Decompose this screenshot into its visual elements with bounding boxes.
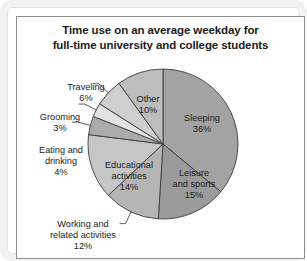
- pie-slice-label: Working andrelated activities12%: [50, 219, 116, 251]
- pie-slices-group: [88, 69, 238, 219]
- pie-chart-area: Sleeping36%Leisureand sports15%Working a…: [16, 16, 305, 259]
- pie-leader-line: [79, 104, 97, 110]
- pie-leader-line: [120, 211, 132, 224]
- pie-leader-line: [72, 122, 92, 125]
- pie-slice-label: Other10%: [137, 94, 160, 115]
- chart-card-frame: Time use on an average weekday for full-…: [0, 0, 307, 261]
- pie-chart-svg: Sleeping36%Leisureand sports15%Working a…: [16, 16, 305, 259]
- pie-slice-label: Eating anddrinking4%: [39, 145, 83, 177]
- pie-slice-label: Traveling6%: [67, 82, 104, 103]
